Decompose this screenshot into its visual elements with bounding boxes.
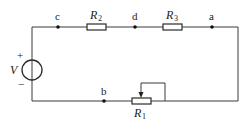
- rheostat-r1: R 1: [132, 83, 165, 121]
- node-a-label: a: [209, 10, 214, 22]
- node-c-label: c: [55, 10, 60, 22]
- source-label: V: [10, 63, 19, 77]
- r2-label: R: [89, 8, 98, 22]
- resistor-r3: R 3: [163, 8, 182, 30]
- r3-label: R: [165, 8, 174, 22]
- wires: [32, 27, 238, 101]
- r2-subscript: 2: [98, 14, 102, 23]
- source-minus-label: −: [18, 78, 24, 90]
- node-d: d: [132, 10, 138, 29]
- node-b-label: b: [101, 85, 107, 97]
- circuit-diagram: + V − c R 2 d R 3 a b R 1: [0, 0, 251, 127]
- r3-subscript: 3: [174, 14, 178, 23]
- node-a: a: [209, 10, 214, 29]
- r1-label: R: [133, 106, 142, 120]
- source-plus-label: +: [17, 49, 23, 61]
- voltage-source: + V −: [10, 49, 42, 90]
- resistor-r2: R 2: [87, 8, 106, 30]
- slider-arrow-icon: [139, 92, 144, 98]
- node-b: b: [101, 85, 107, 103]
- node-c: c: [55, 10, 60, 29]
- r1-subscript: 1: [142, 112, 146, 121]
- node-d-label: d: [132, 10, 138, 22]
